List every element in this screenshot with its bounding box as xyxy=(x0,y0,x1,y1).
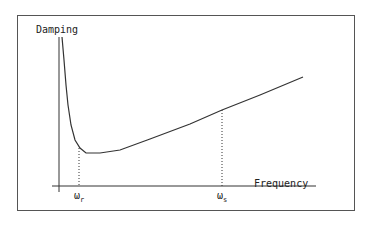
tick-omega-r-subscript: r xyxy=(80,196,84,204)
x-axis-label: Frequency xyxy=(254,178,308,189)
tick-omega-s-subscript: s xyxy=(223,196,227,204)
tick-omega-s: ωs xyxy=(217,190,227,201)
y-axis-label: Damping xyxy=(36,24,78,35)
tick-omega-r: ωr xyxy=(74,190,84,201)
damping-curve xyxy=(62,37,303,153)
